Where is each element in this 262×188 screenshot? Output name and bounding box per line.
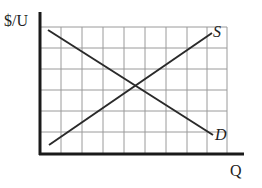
demand-label: D bbox=[215, 127, 227, 143]
x-axis-label: Q bbox=[230, 163, 242, 179]
supply-label: S bbox=[213, 24, 221, 40]
grid bbox=[40, 27, 227, 154]
supply-curve bbox=[49, 33, 212, 145]
y-axis-label: $/U bbox=[4, 13, 28, 29]
demand-curve bbox=[48, 30, 213, 135]
supply-demand-chart bbox=[0, 0, 262, 188]
